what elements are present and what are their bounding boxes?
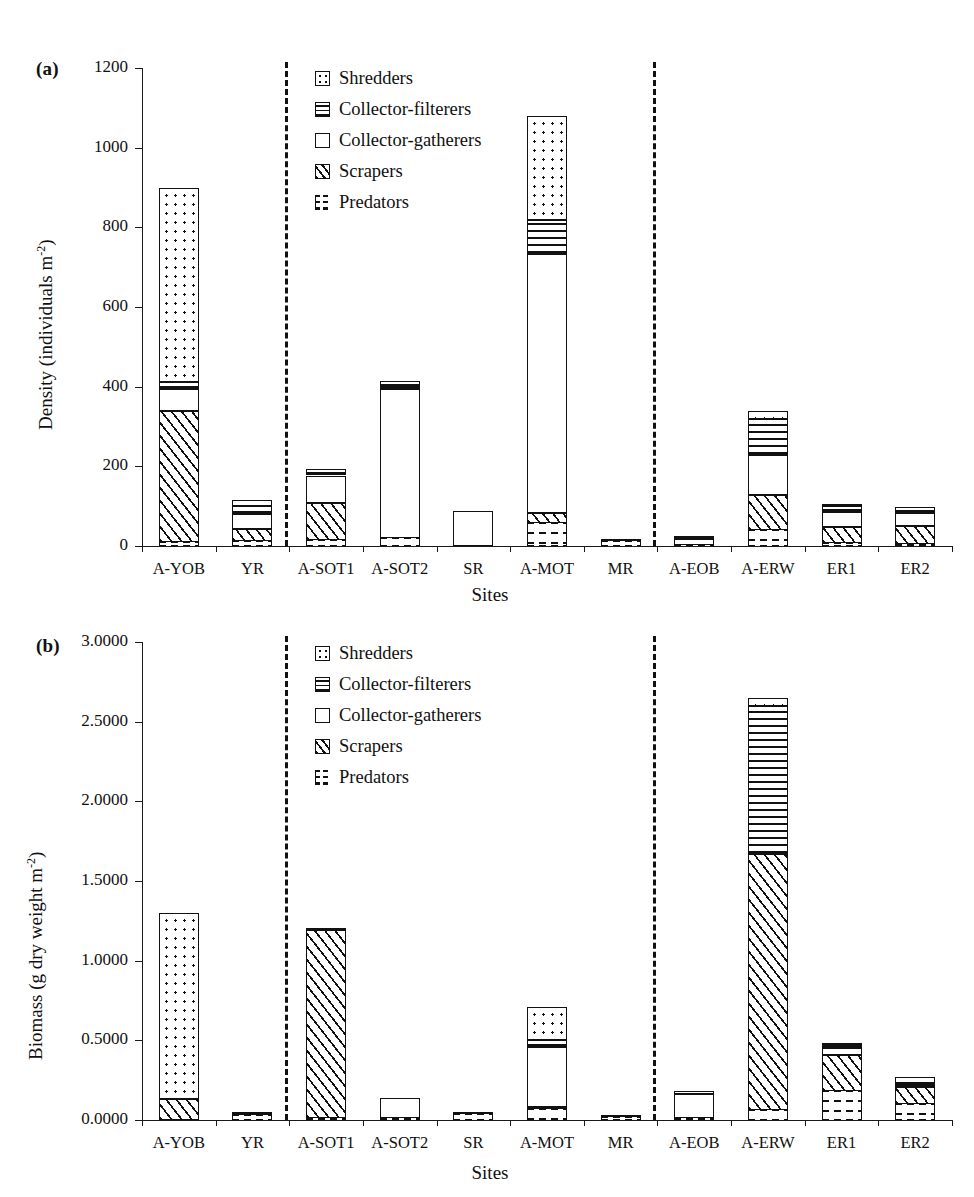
bar-er2: [895, 1077, 935, 1120]
group-divider: [653, 636, 656, 1120]
filterers-swatch-icon: [315, 677, 330, 692]
legend-label-filterers: Collector-filterers: [339, 99, 471, 120]
bar-segment-filterers: [748, 706, 788, 854]
bar-segment-filterers: [822, 1045, 862, 1048]
bar-segment-shredders: [674, 536, 714, 538]
panel-b: (b) Biomass (g dry weight m-2) 0.00000.5…: [0, 610, 974, 1197]
legend-label-predators: Predators: [339, 192, 409, 213]
bar-segment-gatherers: [527, 254, 567, 513]
y-axis-tick: [135, 387, 142, 388]
y-axis-line: [142, 642, 143, 1120]
x-axis-tick: [878, 546, 879, 552]
x-axis-tick: [805, 1120, 806, 1126]
x-axis-tick: [510, 546, 511, 552]
legend-item-shredders: Shredders: [315, 63, 481, 94]
y-axis-line: [142, 68, 143, 546]
x-axis-tick: [952, 546, 953, 552]
bar-a-eob: [674, 1091, 714, 1120]
shredders-swatch-icon: [315, 71, 330, 86]
bar-segment-gatherers: [822, 512, 862, 527]
legend-item-filterers: Collector-filterers: [315, 669, 481, 700]
legend-label-scrapers: Scrapers: [339, 736, 403, 757]
bar-a-sot2: [380, 1098, 420, 1120]
panel-b-x-axis-label: Sites: [400, 1162, 580, 1184]
x-axis-tick: [289, 546, 290, 552]
bar-segment-gatherers: [748, 455, 788, 495]
bar-segment-gatherers: [895, 513, 935, 527]
bar-segment-predators: [748, 1110, 788, 1120]
bar-segment-predators: [527, 523, 567, 546]
bar-segment-gatherers: [306, 476, 346, 503]
bar-segment-filterers: [159, 382, 199, 389]
bar-segment-gatherers: [601, 1115, 641, 1117]
bar-segment-scrapers: [822, 527, 862, 543]
bar-segment-predators: [306, 540, 346, 546]
x-axis-tick: [216, 546, 217, 552]
bar-segment-scrapers: [748, 495, 788, 530]
panel-b-y-axis-label-exponent: -2: [24, 858, 38, 868]
y-axis-tick: [135, 801, 142, 802]
bar-segment-predators: [822, 543, 862, 546]
panel-a-y-axis-label-text: Density (individuals m: [35, 256, 56, 430]
legend-item-predators: Predators: [315, 762, 481, 793]
y-axis-tick-label: 800: [8, 216, 128, 236]
x-axis-tick: [437, 1120, 438, 1126]
bar-segment-gatherers: [674, 1094, 714, 1119]
panel-a-y-axis-label: Density (individuals m-2): [34, 240, 57, 430]
y-axis-tick: [135, 1120, 142, 1121]
x-axis-tick-label-er2: ER2: [860, 559, 970, 579]
x-axis-tick: [584, 546, 585, 552]
x-axis-tick: [731, 546, 732, 552]
bar-segment-gatherers: [232, 514, 272, 529]
bar-segment-shredders: [306, 469, 346, 473]
predators-swatch-icon: [315, 195, 330, 210]
bar-segment-predators: [232, 541, 272, 546]
y-axis-tick-label: 600: [8, 296, 128, 316]
y-axis-tick: [135, 881, 142, 882]
bar-segment-filterers: [822, 506, 862, 512]
bar-a-sot1: [306, 929, 346, 1120]
bar-segment-scrapers: [895, 1087, 935, 1105]
legend-label-shredders: Shredders: [339, 68, 413, 89]
panel-b-legend: ShreddersCollector-filterersCollector-ga…: [315, 638, 481, 793]
bar-a-sot1: [306, 469, 346, 546]
bar-segment-predators: [159, 542, 199, 546]
bar-segment-predators: [822, 1091, 862, 1120]
panel-a-x-axis-label: Sites: [400, 584, 580, 606]
legend-label-filterers: Collector-filterers: [339, 674, 471, 695]
x-axis-tick: [142, 546, 143, 552]
bar-segment-filterers: [380, 385, 420, 389]
x-axis-tick: [952, 1120, 953, 1126]
y-axis-tick-label: 1200: [8, 57, 128, 77]
bar-segment-filterers: [232, 506, 272, 514]
bar-mr: [601, 540, 641, 546]
x-axis-line: [142, 546, 952, 547]
y-axis-tick: [135, 546, 142, 547]
bar-a-erw: [748, 698, 788, 1120]
legend-label-gatherers: Collector-gatherers: [339, 130, 481, 151]
panel-a: (a) Density (individuals m-2) 0200400600…: [0, 0, 974, 620]
bar-segment-shredders: [748, 698, 788, 706]
bar-segment-scrapers: [159, 411, 199, 542]
x-axis-tick: [216, 1120, 217, 1126]
legend-label-scrapers: Scrapers: [339, 161, 403, 182]
bar-segment-predators: [527, 1109, 567, 1120]
predators-swatch-icon: [315, 770, 330, 785]
bar-a-eob: [674, 536, 714, 546]
panel-b-y-axis-label-close: ): [25, 852, 46, 858]
shredders-swatch-icon: [315, 646, 330, 661]
x-axis-tick: [657, 1120, 658, 1126]
group-divider: [285, 636, 288, 1120]
bar-segment-predators: [380, 538, 420, 546]
y-axis-tick-label: 1.5000: [8, 870, 128, 890]
panel-a-legend: ShreddersCollector-filterersCollector-ga…: [315, 63, 481, 218]
x-axis-tick: [363, 546, 364, 552]
bar-segment-filterers: [306, 473, 346, 475]
y-axis-tick: [135, 1040, 142, 1041]
bar-segment-gatherers: [674, 539, 714, 545]
y-axis-tick: [135, 642, 142, 643]
bar-a-yob: [159, 913, 199, 1120]
bar-segment-shredders: [748, 411, 788, 419]
bar-segment-scrapers: [232, 529, 272, 541]
x-axis-line: [142, 1120, 952, 1121]
